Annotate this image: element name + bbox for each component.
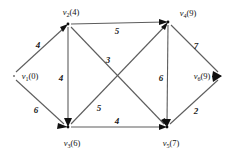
node-label-v2: v2(4) [63,7,80,18]
graph-canvas: 4 6 5 4 3 5 4 6 7 2 v1(0) v2(4) v3(6) v4… [0,0,237,158]
graph-figure: 4 6 5 4 3 5 4 6 7 2 v1(0) v2(4) v3(6) v4… [0,0,237,158]
node-label-v3: v3(6) [64,138,81,149]
edge-weight-v2-v3: 4 [58,73,64,83]
edge-lines [16,22,218,127]
node-label-v5-value: (7) [169,138,179,148]
edge-weight-labels: 4 6 5 4 3 5 4 6 7 2 [34,26,199,126]
node-marker-v4 [167,21,170,24]
node-label-v3-value: (6) [70,138,80,148]
arrowhead-v1-v3 [57,123,68,129]
node-marker-v6 [219,75,221,77]
edge-v2-v4 [71,22,165,24]
edge-weight-v3-v5: 4 [114,116,120,126]
node-label-v6-value: (9) [200,71,210,81]
edge-weight-v2-v4: 5 [115,26,120,36]
edge-weight-v3-v4: 5 [97,103,102,113]
edge-weight-v5-v6: 2 [193,106,199,116]
node-label-v1-value: (0) [28,71,38,81]
edge-v1-v3 [16,80,64,124]
node-label-v6: v6(9) [194,71,211,82]
edge-v4-v5 [167,25,168,123]
node-label-v2-value: (4) [69,7,79,17]
edge-v1-v2 [16,27,65,72]
node-label-v4-value: (9) [186,8,196,18]
node-marker-v5 [166,126,169,129]
node-marker-v1 [13,75,15,77]
node-label-v1: v1(0) [22,71,39,82]
edge-v3-v4 [71,25,166,124]
edge-v5-v6 [170,80,218,124]
edge-weight-v4-v5: 6 [159,73,164,83]
node-marker-v3 [67,126,70,129]
edge-weight-v1-v2: 4 [35,40,41,50]
edge-weight-v1-v3: 6 [34,105,39,115]
node-marker-v2 [67,23,70,26]
node-label-v4: v4(9) [180,8,197,19]
node-label-v5: v5(7) [163,138,180,149]
edge-weight-v2-v5: 3 [105,55,111,65]
edge-weight-v4-v6: 7 [194,41,199,51]
